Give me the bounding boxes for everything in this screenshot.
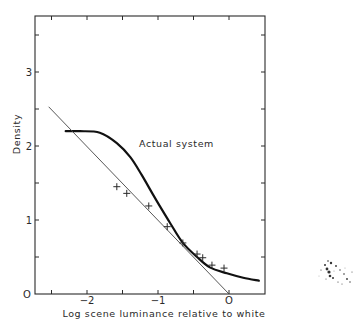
scan-smudge-artifact xyxy=(319,260,353,284)
cross-marker xyxy=(194,251,201,258)
actual-system-annotation: Actual system xyxy=(139,138,214,149)
x-tick-label: −2 xyxy=(80,295,95,306)
ideal-reproduction-line xyxy=(49,107,229,294)
cross-marker xyxy=(221,265,228,272)
tick-labels: −2−1OO123 xyxy=(23,67,233,306)
data-series xyxy=(49,107,259,294)
axis-ticks xyxy=(35,16,265,294)
plot-frame xyxy=(35,16,265,294)
y-tick-label: 3 xyxy=(26,67,32,78)
y-tick-label: O xyxy=(23,289,31,300)
cross-marker xyxy=(113,183,120,190)
actual-system-curve xyxy=(66,131,259,281)
measured-points xyxy=(113,183,227,271)
x-tick-label: −1 xyxy=(151,295,166,306)
plot-border xyxy=(35,16,265,294)
characteristic-curve-chart: −2−1OO123 Log scene luminance relative t… xyxy=(0,0,363,331)
x-tick-label: O xyxy=(225,295,233,306)
y-tick-label: 1 xyxy=(26,215,32,226)
y-axis-label: Density xyxy=(11,114,22,154)
x-axis-label: Log scene luminance relative to white xyxy=(62,308,265,319)
y-tick-label: 2 xyxy=(26,141,32,152)
